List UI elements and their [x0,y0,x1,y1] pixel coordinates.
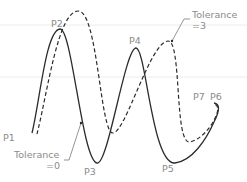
point-label-p1: P1 [3,132,15,143]
tolerance-3-leader [172,19,190,41]
spline-tolerance-diagram: P1 P2 P3 P4 P5 P6 P7 Tolerance =3 Tolera… [0,0,247,182]
tolerance-3-label-line1: Tolerance [191,9,237,20]
point-label-p5: P5 [162,163,174,174]
tolerance-3-label-line2: =3 [192,20,206,31]
point-label-p3: P3 [84,166,96,177]
point-label-p4: P4 [129,35,141,46]
point-label-p6: P6 [210,91,222,102]
point-label-p2: P2 [51,18,63,29]
tolerance-0-leader [64,123,81,160]
tolerance-0-label-line2: =0 [46,160,60,171]
tolerance-0-label-line1: Tolerance [13,149,59,160]
tolerance-0-leader-dot [80,122,82,124]
spline-tolerance-0 [32,29,219,163]
tolerance-3-leader-dot [171,40,173,42]
point-label-p7: P7 [193,91,205,102]
